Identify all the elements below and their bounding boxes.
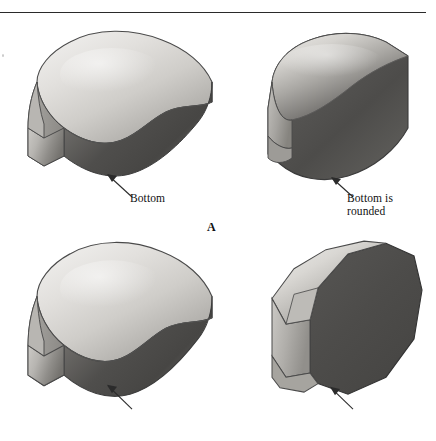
smoothed-solid-left-b — [4, 222, 222, 441]
callout-a-right: Bottom is rounded — [347, 192, 393, 217]
faceted-solid-right-b — [214, 222, 436, 441]
panel-a: Bottom Bottom is rounded A — [0, 16, 436, 222]
rounded-solid-right-a — [214, 16, 436, 222]
callout-a-right-line1: Bottom is — [347, 192, 393, 204]
panel-a-left-cell — [4, 16, 222, 222]
panel-b-right-cell — [214, 222, 436, 441]
top-horizontal-rule — [0, 12, 426, 13]
figure-root: Bottom Bottom is rounded A — [0, 0, 436, 441]
callout-a-right-line2: rounded — [347, 205, 393, 218]
panel-b-left-cell — [4, 222, 222, 441]
leader-a-left — [107, 174, 132, 197]
panel-b: Bottom Bottom is not smoothed B — [0, 222, 436, 441]
smoothed-solid-left-a — [4, 16, 222, 222]
callout-a-left-line1: Bottom — [130, 192, 165, 204]
panel-a-right-cell — [214, 16, 436, 222]
callout-a-left: Bottom — [130, 192, 165, 205]
